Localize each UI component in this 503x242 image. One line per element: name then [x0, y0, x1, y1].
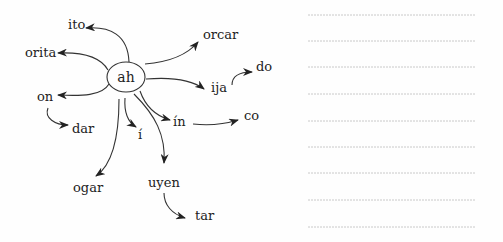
- arrow-to-orcar: [145, 42, 198, 64]
- word-ogar: ogar: [73, 180, 104, 195]
- arrow-in-to-co: [193, 120, 238, 125]
- arrow-to-ogar: [96, 99, 119, 176]
- word-in: ín: [173, 114, 186, 129]
- arrow-to-i: [125, 98, 136, 127]
- word-orcar: orcar: [203, 27, 239, 42]
- arrow-ija-to-do: [232, 72, 252, 85]
- arrow-to-on: [58, 84, 109, 95]
- word-do: do: [256, 59, 272, 74]
- word-co: co: [244, 108, 259, 123]
- word-on: on: [37, 89, 54, 104]
- arrow-uyen-to-tar: [164, 193, 185, 218]
- word-tar: tar: [195, 208, 215, 223]
- word-uyen: uyen: [148, 175, 180, 190]
- word-web-diagram: ah ito orita on dar orcar ija do ín co í…: [0, 0, 503, 242]
- arrow-to-ija: [146, 78, 204, 89]
- word-dar: dar: [72, 121, 95, 136]
- word-i: í: [138, 127, 143, 142]
- word-web-worksheet: ah ito orita on dar orcar ija do ín co í…: [0, 0, 503, 242]
- hub-node: ah: [107, 62, 145, 92]
- arrow-on-to-dar: [47, 108, 68, 125]
- hub-label: ah: [117, 69, 134, 85]
- writing-lines: [308, 15, 475, 227]
- word-ija: ija: [211, 80, 227, 95]
- word-orita: orita: [25, 45, 56, 60]
- word-ito: ito: [68, 17, 85, 32]
- arrow-to-orita: [58, 53, 108, 70]
